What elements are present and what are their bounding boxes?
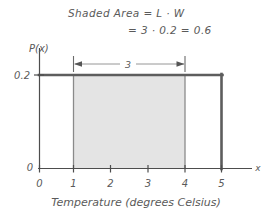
- figure-caption: Temperature (degrees Celsius): [51, 196, 221, 209]
- x-tick-label-1: 1: [70, 178, 76, 189]
- x-axis-label: x: [254, 163, 261, 173]
- shaded-area-region: [73, 76, 185, 169]
- probability-density-figure: Shaded Area = L · W = 3 · 0.2 = 0.6 P(x)…: [0, 0, 272, 213]
- equation-line-1: Shaded Area = L · W: [68, 7, 185, 19]
- y-tick-label-0.2: 0.2: [14, 70, 30, 81]
- x-tick-label-5: 5: [218, 178, 224, 189]
- figure-canvas: Shaded Area = L · W = 3 · 0.2 = 0.6 P(x)…: [0, 0, 272, 213]
- equation-line-2: = 3 · 0.2 = 0.6: [128, 24, 212, 36]
- y-tick-label-0: 0: [27, 162, 33, 173]
- x-tick-label-0: 0: [36, 178, 42, 189]
- y-axis-label: P(x): [29, 43, 49, 54]
- dimension-arrowhead-right-icon: [177, 61, 185, 67]
- x-tick-label-2: 2: [107, 178, 113, 189]
- dimension-label: 3: [125, 59, 131, 70]
- x-tick-label-3: 3: [145, 178, 151, 189]
- x-tick-label-4: 4: [182, 178, 188, 189]
- dimension-arrowhead-left-icon: [74, 61, 82, 67]
